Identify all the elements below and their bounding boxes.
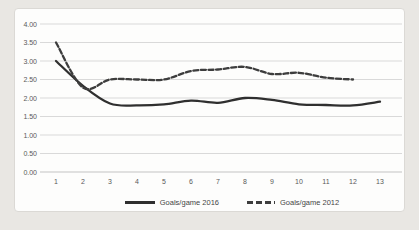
chart-card: 0.000.501.001.502.002.503.003.504.001234… [14,8,405,212]
y-tick-label: 0.00 [23,169,37,176]
legend-solid-line-swatch [125,201,155,204]
legend-item-2012: Goals/game 2012 [247,199,339,207]
x-tick-label: 9 [270,178,274,185]
line-chart: 0.000.501.001.502.002.503.003.504.001234… [15,9,404,211]
page-background: 0.000.501.001.502.002.503.003.504.001234… [0,0,419,230]
x-tick-label: 11 [322,178,329,185]
y-tick-label: 2.50 [23,76,37,83]
series-line-goals-game-2012 [56,43,353,90]
y-tick-label: 0.50 [23,150,37,157]
x-tick-label: 6 [189,178,193,185]
x-tick-label: 8 [243,178,247,185]
legend-dashed-line-swatch [247,201,275,204]
x-tick-label: 13 [376,178,384,185]
y-tick-label: 4.00 [23,21,37,28]
legend-label-2016: Goals/game 2016 [160,199,219,207]
y-tick-label: 2.00 [23,95,37,102]
x-tick-label: 7 [216,178,220,185]
x-tick-label: 5 [162,178,166,185]
y-tick-label: 1.00 [23,132,37,139]
x-tick-label: 3 [108,178,112,185]
x-tick-label: 1 [54,178,58,185]
legend-item-2016: Goals/game 2016 [125,199,219,207]
x-tick-label: 12 [349,178,357,185]
chart-legend: Goals/game 2016 Goals/game 2012 [15,199,404,207]
x-tick-label: 10 [295,178,303,185]
x-tick-label: 2 [81,178,85,185]
x-tick-label: 4 [135,178,139,185]
legend-label-2012: Goals/game 2012 [280,199,339,207]
y-tick-label: 1.50 [23,113,37,120]
y-tick-label: 3.00 [23,58,37,65]
series-line-goals-game-2016 [56,61,380,106]
y-tick-label: 3.50 [23,39,37,46]
